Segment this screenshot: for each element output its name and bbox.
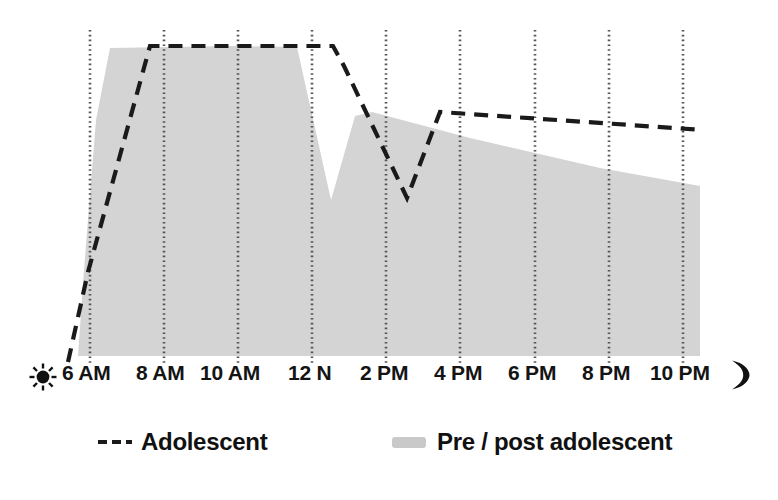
series-area-pre-post-adolescent (78, 46, 700, 356)
chart-legend: Adolescent Pre / post adolescent (0, 424, 778, 472)
dashed-line-swatch-icon (98, 440, 132, 444)
legend-label-adolescent: Adolescent (141, 428, 267, 456)
moon-icon (726, 359, 756, 395)
legend-item-pre-post-adolescent[interactable]: Pre / post adolescent (392, 424, 672, 460)
x-tick-label-5: 4 PM (434, 360, 482, 386)
x-tick-label-2: 10 AM (200, 360, 260, 386)
x-tick-label-7: 8 PM (582, 360, 630, 386)
x-tick-label-0: 6 AM (62, 360, 111, 386)
x-tick-label-3: 12 N (288, 360, 332, 386)
x-tick-label-6: 6 PM (508, 360, 556, 386)
area-fill-swatch-icon (392, 437, 426, 448)
x-axis: 6 AM 8 AM 10 AM 12 N 2 PM 4 PM 6 PM 8 PM… (0, 360, 778, 394)
sun-icon (28, 362, 58, 396)
x-tick-label-4: 2 PM (360, 360, 408, 386)
legend-item-adolescent[interactable]: Adolescent (98, 424, 267, 460)
sleep-propensity-chart: 6 AM 8 AM 10 AM 12 N 2 PM 4 PM 6 PM 8 PM… (0, 0, 778, 500)
x-tick-label-1: 8 AM (136, 360, 185, 386)
legend-label-pre-post-adolescent: Pre / post adolescent (437, 428, 672, 456)
x-tick-label-8: 10 PM (650, 360, 710, 386)
plot-area (0, 0, 778, 372)
plot-svg (0, 0, 778, 372)
